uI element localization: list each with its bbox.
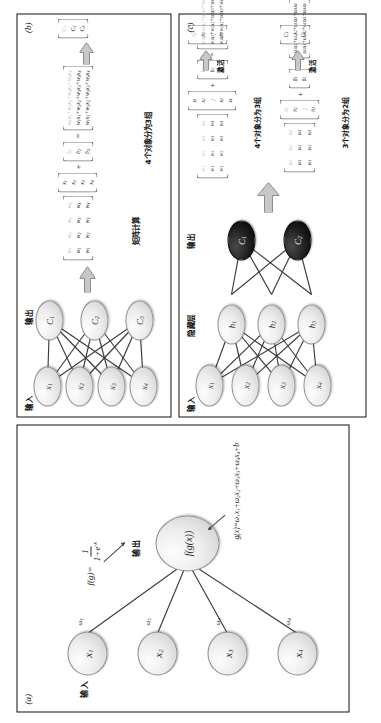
panel-c-hidden-node-1: h1 xyxy=(217,304,245,344)
activation-numerator: 1 xyxy=(79,546,91,557)
panel-b-matrix-caption: 矩阵计算 xyxy=(129,216,140,244)
panel-b-equals: = xyxy=(72,133,82,138)
figure-root: (a) 输入 x1 x2 x3 x4 ω1 ω2 ω3 ω4 f(g(x)) 输… xyxy=(0,0,381,723)
panel-c-input-node-4: x4 xyxy=(303,364,331,406)
node-label: x2 xyxy=(151,649,164,657)
panel-a-output-node: f(g(x)) xyxy=(155,515,219,571)
panel-c-plus-1: + xyxy=(207,82,216,87)
panel-b-plus: + xyxy=(72,164,82,169)
activation-denominator: 1+e-x xyxy=(91,538,102,563)
panel-b-bias-vector: b1 b2 b3 xyxy=(62,141,93,161)
panel-a-input-node-4: x4 xyxy=(277,631,317,675)
panel-b-input-node-2: x2 xyxy=(65,366,93,406)
panel-b-weight-matrix: w1w2w3w4 w1w2w3w4 w1w2w3w4 xyxy=(62,195,93,260)
panel-c-weight-matrix-2: ω1ω2ω3 ω1ω2ω3 ω1ω2ω3 xyxy=(283,122,315,172)
panel-c-input-label: 输入 xyxy=(184,396,195,411)
matrix-row: w1w2w3w4 xyxy=(73,200,82,255)
linear-equation-text: g(x)=ω1x1+ω2x2+ω3x3+ω4x4+b xyxy=(231,442,240,539)
panel-b-input-node-4: x4 xyxy=(129,366,157,406)
panel-a-input-node-2: x2 xyxy=(137,631,177,675)
panel-c-hidden-label: 隐藏层 xyxy=(184,314,195,337)
panel-c-grouping-caption-2: 3个对象分为2组 xyxy=(339,96,349,148)
panel-a-weight-3: ω3 xyxy=(213,618,221,625)
matrix-row: w1w2w3w4 xyxy=(64,200,73,255)
panel-c-activated-vector-1: h1 h2 ⋮ h3 xyxy=(187,24,227,44)
panel-c-hidden-node-2: h2 xyxy=(257,304,285,344)
node-label: x4 xyxy=(291,649,304,657)
panel-b-input-vector: x1 x2 x3 x4 xyxy=(57,172,97,192)
panel-b-input-node-1: x1 xyxy=(33,366,61,406)
panel-b-equation: w1w2w3w4 w1w2w3w4 w1w2w3w4 x1 x2 x3 x4 +… xyxy=(57,65,97,260)
node-label: x3 xyxy=(221,649,234,657)
panel-b-output-label: 输出 xyxy=(22,309,33,324)
panel-a: (a) 输入 x1 x2 x3 x4 ω1 ω2 ω3 ω4 f(g(x)) 输… xyxy=(16,424,349,712)
panel-c-output-node-2: C2 xyxy=(283,220,311,260)
panel-c-input-vector-1: x1 x2 ⋮ x3 x4 xyxy=(187,90,236,110)
panel-b-grouping-caption: 4个对象分为3组 xyxy=(141,112,152,164)
panel-b-arrow-2 xyxy=(79,42,93,64)
panel-a-weight-4: ω4 xyxy=(283,618,291,625)
panel-c-input-node-3: x3 xyxy=(267,364,295,406)
panel-a-input-node-1: x1 xyxy=(67,631,107,675)
panel-c-input-vector-2: h1 h2 ⋮ h3 xyxy=(279,99,319,119)
panel-b-arrow-1 xyxy=(79,266,95,292)
panel-c-weight-matrix-1: w1w2w3w4 w1w2w3w4 w1w2w3w4 xyxy=(196,113,228,178)
panel-c-grouping-caption-1: 4个对象分为3组 xyxy=(251,96,261,148)
panel-b-output-node-3: C3 xyxy=(125,300,153,340)
panel-c-activation-arrow-2 xyxy=(291,50,304,70)
panel-c-hidden-node-3: h3 xyxy=(297,304,325,344)
panel-c: (c) 输入 隐藏层 输出 x1 x2 x3 x4 h1 h2 h3 C1 C2 xyxy=(178,13,366,417)
panel-c-output-node-1: C1 xyxy=(227,220,255,260)
panel-a-activation-formula: f(g)= 1 1+e-x xyxy=(79,538,103,585)
panel-b-input-label: 输入 xyxy=(22,395,33,410)
panel-b-output-node-2: C2 xyxy=(80,300,108,340)
panel-c-activation-label-1: 激活 xyxy=(214,58,224,72)
output-node-label: f(g(x)) xyxy=(182,530,193,556)
figure-page: (a) 输入 x1 x2 x3 x4 ω1 ω2 ω3 ω4 f(g(x)) 输… xyxy=(0,0,381,723)
panel-b-result-vector: w1x1+w2x2+w3x3+w4x4 w1x1+w2x2+w3x3+w4x4 … xyxy=(62,65,93,130)
matrix-row: w1w2w3w4 xyxy=(82,200,91,255)
panel-c-input-node-2: x2 xyxy=(231,364,259,406)
panel-a-weight-1: ω1 xyxy=(75,618,83,625)
panel-c-input-node-1: x1 xyxy=(195,364,223,406)
panel-c-plus-2: + xyxy=(295,91,304,96)
panel-b-class-vector: C1 C2 C3 xyxy=(57,18,88,38)
figure-rotated-canvas: (a) 输入 x1 x2 x3 x4 ω1 ω2 ω3 ω4 f(g(x)) 输… xyxy=(0,0,381,723)
panel-a-linear-equation: g(x)=ω1x1+ω2x2+ω3x3+ω4x4+b xyxy=(231,442,240,539)
activation-label: f(g)= xyxy=(85,566,95,585)
panel-c-main-arrow xyxy=(257,182,279,212)
panel-b-input-node-3: x3 xyxy=(97,366,125,406)
panel-a-input-node-3: x3 xyxy=(207,631,247,675)
panel-c-output-label: 输出 xyxy=(184,233,195,248)
panel-c-activation-arrow-1 xyxy=(199,50,212,70)
panel-a-weight-2: ω2 xyxy=(143,618,151,625)
activation-fraction: 1 1+e-x xyxy=(79,538,103,563)
panel-a-output-label: 输出 xyxy=(129,539,140,556)
panel-c-activation-label-2: 激活 xyxy=(306,58,316,72)
panel-a-input-label: 输入 xyxy=(77,680,88,697)
panel-b-output-node-1: C1 xyxy=(35,300,63,340)
panel-c-activated-vector-2: C1 ⋮ C2 xyxy=(279,24,310,44)
node-label: x1 xyxy=(81,649,94,657)
panel-b: (b) 输入 输出 x1 x2 x3 x4 C1 C2 C3 w1w2w3w4 … xyxy=(16,13,171,417)
